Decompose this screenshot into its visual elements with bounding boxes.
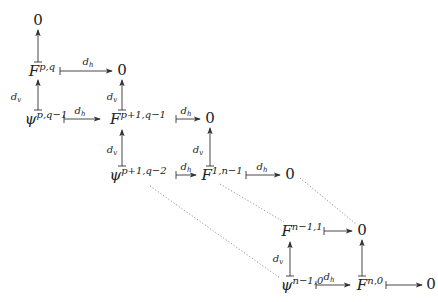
ellipsis-dotted-line (150, 186, 280, 278)
node-base: ψ (109, 166, 121, 184)
vertical-differential-label: dv (193, 144, 203, 157)
node-Fn0: Fn,0 (357, 276, 383, 293)
node-base: F (281, 222, 291, 240)
node-superscript: p,q (39, 61, 55, 72)
node-psi_pq1: ψp,q−1 (25, 110, 68, 127)
horizontal-differential-label: dh (83, 56, 94, 69)
horizontal-differential-label: dh (75, 105, 86, 118)
node-superscript: n−1,1 (292, 221, 323, 232)
node-base: 0 (117, 61, 127, 79)
node-psi_p1q2: ψp+1,q−2 (109, 166, 166, 183)
node-base: 0 (285, 165, 295, 183)
horizontal-differential-label: dh (181, 105, 192, 118)
node-superscript: 1,n−1 (212, 165, 243, 176)
vertical-differential-label: dv (107, 91, 117, 104)
horizontal-differential-label: dh (324, 271, 335, 284)
vertical-differential-label: dv (11, 91, 21, 104)
node-superscript: n−1,0 (293, 275, 324, 286)
node-base: F (110, 110, 120, 128)
node-F1n1: F1,n−1 (201, 166, 242, 183)
node-base: ψ (281, 276, 293, 294)
node-base: F (357, 276, 367, 294)
node-base: 0 (33, 11, 43, 29)
node-Fn11: Fn−1,1 (281, 222, 322, 239)
zero-object: 0 (117, 63, 127, 78)
zero-object: 0 (33, 13, 43, 28)
node-superscript: p,q−1 (37, 109, 68, 120)
node-base: 0 (205, 109, 215, 127)
horizontal-differential-label: dh (181, 161, 192, 174)
node-superscript: p+1,q−2 (121, 165, 166, 176)
ellipsis-dotted-line (220, 184, 284, 222)
horizontal-differential-label: dh (257, 161, 268, 174)
zero-object: 0 (285, 167, 295, 182)
vertical-differential-label: dv (107, 144, 117, 157)
zero-object: 0 (357, 223, 367, 238)
zero-object: 0 (426, 277, 436, 292)
node-base: 0 (426, 275, 436, 293)
node-base: F (29, 62, 39, 80)
node-base: F (201, 166, 211, 184)
node-Fp1q1: Fp+1,q−1 (110, 110, 166, 127)
node-base: ψ (25, 110, 37, 128)
node-base: 0 (357, 221, 367, 239)
commutative-diagram: 0Fp,q0ψp,q−1Fp+1,q−10ψp+1,q−2F1,n−10Fn−1… (0, 0, 438, 302)
ellipsis-dotted-line (300, 178, 356, 224)
node-superscript: p+1,q−1 (120, 109, 165, 120)
node-superscript: n,0 (367, 275, 383, 286)
vertical-differential-label: dv (273, 253, 283, 266)
zero-object: 0 (205, 111, 215, 126)
node-Fpq: Fp,q (29, 62, 55, 79)
diagram-arrows (0, 0, 438, 302)
node-psi_n10: ψn−1,0 (281, 276, 324, 293)
